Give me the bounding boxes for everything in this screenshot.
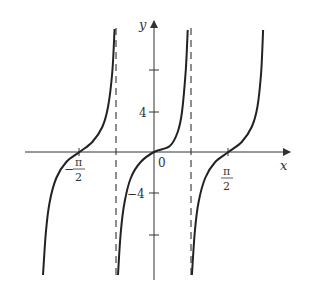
denominator: 2 (223, 180, 230, 193)
x-tick-label-pi-half: π 2 (221, 165, 233, 193)
y-axis-label: y (138, 17, 147, 32)
origin-label: 0 (158, 156, 166, 170)
denominator: 2 (75, 171, 82, 184)
minus-sign: − (64, 162, 74, 176)
y-tick-label-4: 4 (139, 106, 147, 120)
function-plot: y x 0 4 −4 − π 2 π 2 (0, 0, 312, 283)
pi-symbol: π (223, 165, 230, 178)
pi-symbol: π (75, 156, 82, 169)
y-tick-label-neg4: −4 (127, 187, 145, 201)
x-axis-label: x (280, 158, 288, 173)
